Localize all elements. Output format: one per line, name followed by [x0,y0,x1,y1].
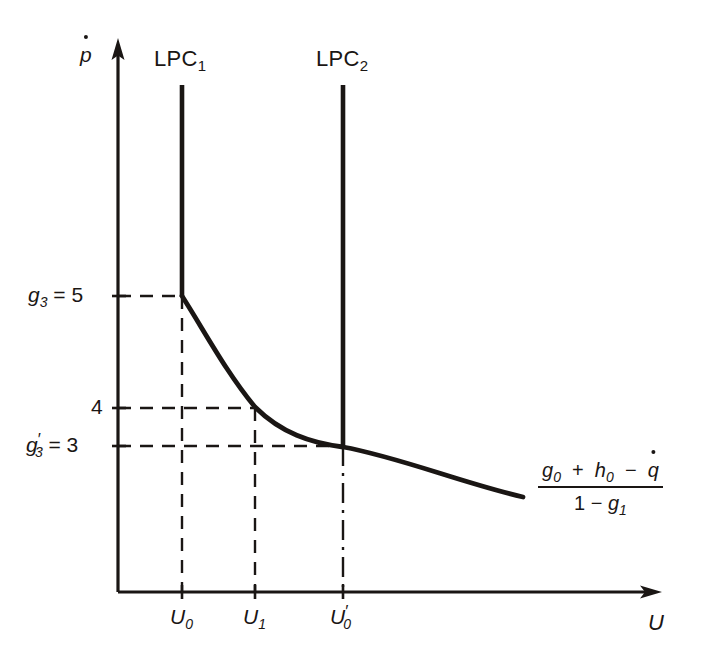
guide-lines [118,296,345,592]
short-run-phillips-curve [182,296,523,497]
lpc1-label: LPC1 [154,48,206,70]
y-tick-label-4: 4 [91,396,103,417]
x-tick-label-u0-prime: U′0 [330,606,351,627]
asymptote-numerator: g0 + h0 − q [538,458,663,488]
y-tick-label-3: g′3 = 3 [26,434,78,455]
lpc1-subscript: 1 [198,57,207,74]
asymptote-expression: g0 + h0 − q 1 − g1 [538,458,663,516]
y-tick-label-5: g3 = 5 [28,284,83,305]
phillips-curve-figure: p U LPC1 LPC2 g3 = 5 4 g′3 = 3 U0 U1 U′0… [0,0,708,661]
lpc2-label-text: LPC [316,46,360,71]
figure-canvas [0,0,708,661]
x-axis-label: U [648,612,664,634]
asymptote-denominator: 1 − g1 [538,488,663,517]
lpc2-label: LPC2 [316,48,368,70]
lpc2-subscript: 2 [360,57,369,74]
y-axis-label: p [80,44,92,65]
x-axis [118,586,662,599]
y-axis [112,38,125,592]
lpc1-label-text: LPC [154,46,198,71]
x-tick-label-u1: U1 [243,606,266,627]
x-tick-label-u0: U0 [170,606,193,627]
